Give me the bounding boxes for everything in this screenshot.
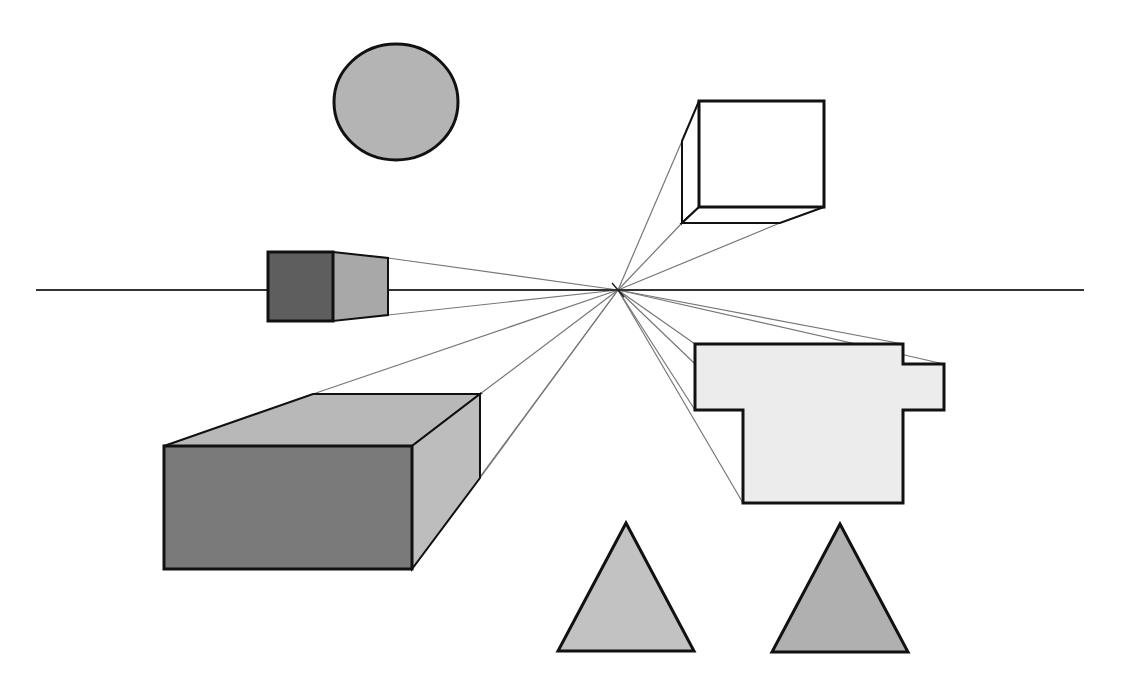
- wire-cube-bottom-face: [682, 207, 824, 223]
- small-cube-front-face: [268, 252, 333, 321]
- big-box-shape: [164, 394, 480, 569]
- big-box-front-face: [164, 446, 412, 569]
- guide-line: [388, 258, 618, 290]
- small-cube-side-face: [333, 252, 388, 321]
- triangle-right-shape: [772, 524, 908, 652]
- wire-cube-shape: [682, 101, 824, 223]
- shapes-layer: [164, 44, 944, 652]
- guide-line: [618, 223, 682, 290]
- guide-line: [618, 290, 695, 410]
- guide-line: [618, 290, 695, 344]
- wire-cube-front-face: [699, 101, 824, 207]
- stepped-shape-shape: [695, 344, 944, 503]
- perspective-diagram: One-point perspective: [0, 0, 1122, 685]
- triangle-left-face: [558, 523, 694, 651]
- guide-line: [388, 290, 618, 315]
- triangle-left-shape: [558, 523, 694, 651]
- triangle-right-face: [772, 524, 908, 652]
- wire-cube-left-face: [682, 101, 699, 223]
- diagram-canvas: [0, 0, 1122, 685]
- small-cube-shape: [268, 252, 388, 321]
- circle-shape: [334, 44, 458, 160]
- guide-line: [618, 290, 903, 344]
- circle-ellipse: [334, 44, 458, 160]
- guide-line: [480, 290, 618, 394]
- stepped-shape-front-face: [695, 344, 944, 503]
